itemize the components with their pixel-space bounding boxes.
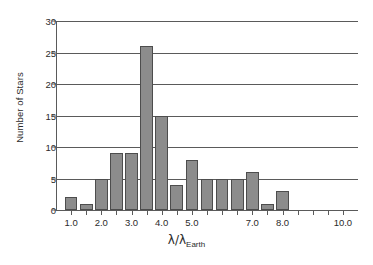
x-tick-mark [177,211,178,215]
bar [201,179,214,211]
x-tick-mark [116,211,117,215]
histogram-chart: Number of Stars 051015202530 1.02.03.04.… [0,0,373,265]
x-tick-mark [328,211,329,215]
y-tick-label: 0 [28,205,56,216]
x-axis-title-main: λ/λ [168,233,186,247]
bar [246,172,259,210]
x-tick-mark [298,211,299,215]
x-tick-label: 5.0 [172,217,212,228]
x-tick-label: 10.0 [323,217,363,228]
bar [276,191,289,210]
bar [231,179,244,211]
y-tick-label: 15 [28,110,56,121]
x-tick-mark [71,211,72,215]
x-tick-mark [343,211,344,215]
x-tick-mark [132,211,133,215]
x-tick-mark [192,211,193,215]
bar [186,160,199,210]
bar [140,46,153,210]
bar [216,179,229,211]
y-tick-label: 5 [28,173,56,184]
bar [155,116,168,211]
bar [125,153,138,210]
bar-series [56,21,358,210]
bar [65,197,78,210]
plot-area [56,21,358,210]
x-tick-mark [252,211,253,215]
bar [95,179,108,211]
y-tick-label: 20 [28,79,56,90]
x-axis-title-sub: Earth [186,240,205,249]
y-axis-title: Number of Stars [8,0,30,215]
x-tick-mark [267,211,268,215]
x-tick-mark [86,211,87,215]
x-tick-mark [162,211,163,215]
x-tick-mark [207,211,208,215]
x-tick-mark [222,211,223,215]
y-axis-title-text: Number of Stars [14,72,25,143]
x-tick-mark [283,211,284,215]
y-tick-label: 25 [28,47,56,58]
x-tick-mark [313,211,314,215]
y-tick-label: 10 [28,142,56,153]
y-tick-label: 30 [28,16,56,27]
x-axis-title: λ/λEarth [0,233,373,249]
bar [170,185,183,210]
x-tick-mark [147,211,148,215]
x-tick-mark [101,211,102,215]
x-tick-label: 8.0 [263,217,303,228]
x-tick-mark [237,211,238,215]
bar [110,153,123,210]
